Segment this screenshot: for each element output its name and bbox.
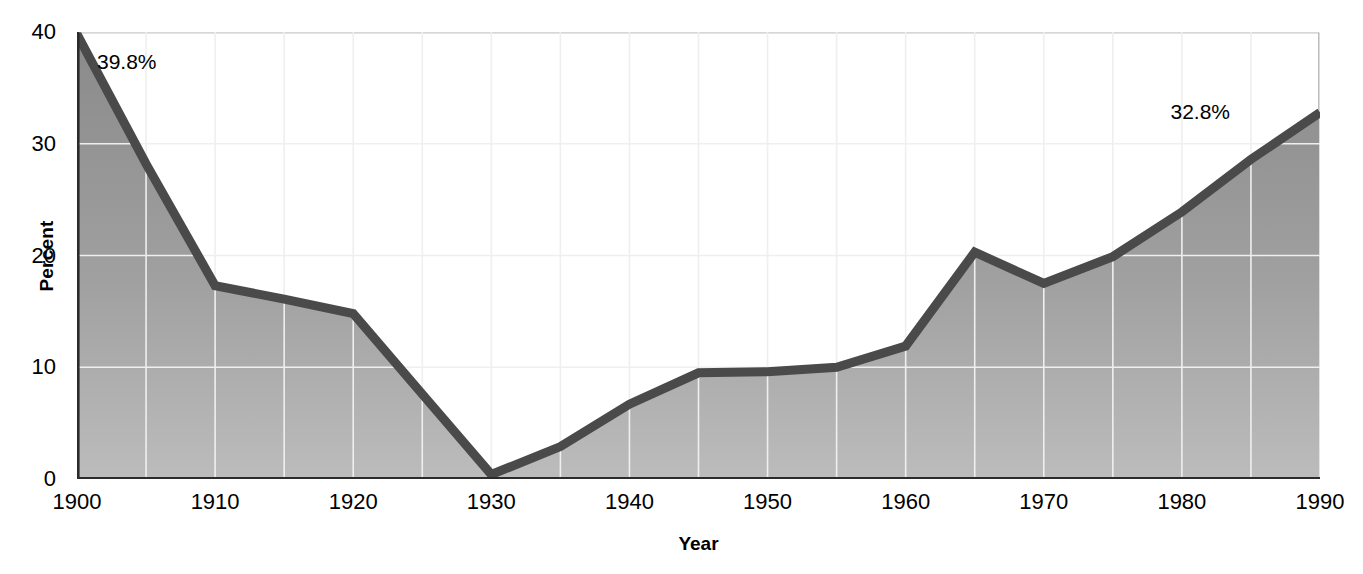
y-tick-label: 40: [0, 19, 66, 45]
x-tick-label: 1940: [605, 489, 654, 515]
y-axis-tick-labels: 010203040: [0, 0, 66, 574]
y-tick-label: 10: [0, 354, 66, 380]
x-tick-label: 1950: [743, 489, 792, 515]
area-chart-svg: [77, 32, 1320, 479]
chart-figure: Percent 010203040 190019101920193: [0, 0, 1363, 574]
x-tick-label: 1910: [191, 489, 240, 515]
annotation-start-value: 39.8%: [97, 50, 157, 74]
y-tick-label: 20: [0, 243, 66, 269]
x-tick-label: 1980: [1157, 489, 1206, 515]
y-tick-label: 30: [0, 131, 66, 157]
x-axis-title: Year: [77, 533, 1320, 555]
x-tick-label: 1900: [53, 489, 102, 515]
annotation-end-value: 32.8%: [1170, 100, 1230, 124]
x-tick-label: 1990: [1296, 489, 1345, 515]
plot-area: [77, 32, 1320, 479]
x-tick-label: 1970: [1019, 489, 1068, 515]
x-tick-label: 1930: [467, 489, 516, 515]
x-tick-label: 1960: [881, 489, 930, 515]
x-tick-label: 1920: [329, 489, 378, 515]
